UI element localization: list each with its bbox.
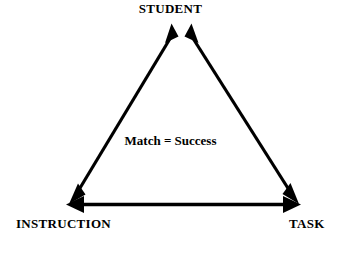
vertex-label-task: TASK (289, 216, 325, 232)
center-annotation-text: Match = Success (0, 133, 341, 149)
edge-instruction-task (66, 196, 301, 213)
edge-student-instruction-shaft (77, 32, 174, 193)
arrowhead-toward-student-left (165, 24, 179, 44)
diagram-canvas: STUDENT INSTRUCTION TASK Match = Success (0, 0, 341, 255)
edge-student-task (185, 24, 300, 205)
edge-student-task-shaft (189, 32, 291, 193)
arrowhead-toward-student-right (185, 24, 199, 44)
vertex-label-student: STUDENT (0, 1, 341, 17)
vertex-label-instruction: INSTRUCTION (16, 216, 111, 232)
edge-student-instruction (69, 24, 179, 205)
